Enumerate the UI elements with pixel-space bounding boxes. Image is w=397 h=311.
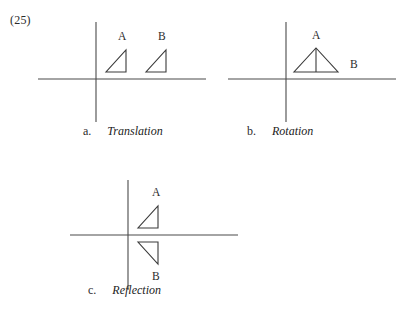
triangle-b-label: B — [152, 270, 160, 282]
triangle-a — [106, 50, 126, 72]
worksheet-page: (25) A B a.Translation A B b.Rotation — [0, 0, 397, 311]
caption-translation: a.Translation — [83, 124, 163, 139]
triangle-b-label: B — [158, 30, 166, 42]
figure-reflection: A B — [70, 180, 238, 290]
triangle-b — [146, 50, 166, 72]
rotation-diagram: A B — [228, 22, 396, 122]
translation-diagram: A B — [38, 22, 206, 122]
caption-name-b: Rotation — [272, 124, 313, 138]
caption-name-a: Translation — [107, 124, 162, 138]
caption-reflection: c.Reflection — [88, 283, 161, 298]
caption-letter-c: c. — [88, 283, 96, 297]
triangle-a-label: A — [312, 29, 321, 41]
caption-letter-a: a. — [83, 124, 91, 138]
caption-name-c: Reflection — [112, 283, 161, 297]
figure-translation: A B — [38, 22, 206, 122]
figure-rotation: A B — [228, 22, 396, 122]
caption-rotation: b.Rotation — [247, 124, 313, 139]
triangle-a-label: A — [118, 30, 127, 42]
question-number: (25) — [10, 13, 31, 28]
caption-letter-b: b. — [247, 124, 256, 138]
triangle-a-label: A — [152, 186, 161, 198]
triangle-b — [138, 242, 158, 264]
reflection-diagram: A B — [70, 180, 238, 290]
triangle-b-label: B — [350, 58, 358, 70]
triangle-a — [138, 206, 158, 228]
